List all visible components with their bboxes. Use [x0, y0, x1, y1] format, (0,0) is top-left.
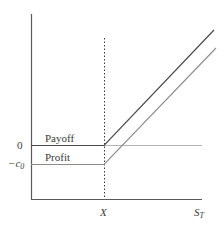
neg-c0-subscript: 0 — [20, 162, 24, 171]
profit-line — [31, 48, 216, 165]
profit-label: Profit — [45, 152, 70, 163]
y-tick-neg-c0: −c0 — [8, 158, 24, 169]
call-option-payoff-chart — [0, 0, 224, 230]
payoff-label: Payoff — [45, 133, 74, 144]
x-axis-label-subscript: T — [200, 211, 204, 220]
payoff-line — [31, 30, 214, 146]
y-tick-zero: 0 — [17, 140, 23, 151]
neg-c0-main: −c — [8, 157, 20, 169]
x-axis-label: ST — [194, 207, 204, 218]
strike-tick-label: X — [100, 207, 107, 218]
